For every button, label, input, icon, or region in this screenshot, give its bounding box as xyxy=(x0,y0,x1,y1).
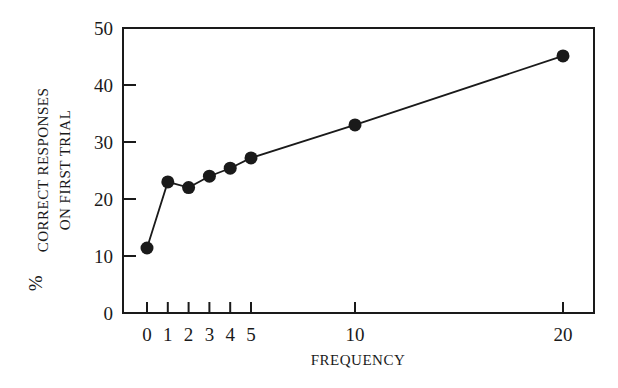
data-point xyxy=(203,170,216,183)
line-chart: 01020304050 0123451020 FREQUENCY CORRECT… xyxy=(0,0,618,388)
y-tick-label: 30 xyxy=(94,132,113,153)
data-point xyxy=(349,118,362,131)
x-axis-ticks: 0123451020 xyxy=(142,302,572,345)
y-axis-percent-sign: % xyxy=(25,275,46,291)
y-axis-title-line2: ON FIRST TRIAL xyxy=(57,110,73,231)
data-point xyxy=(557,49,570,62)
x-tick-label: 4 xyxy=(225,324,235,345)
x-tick-label: 0 xyxy=(142,324,152,345)
plot-frame xyxy=(123,28,594,313)
x-axis-title: FREQUENCY xyxy=(311,352,406,368)
data-markers xyxy=(141,49,570,254)
x-tick-label: 2 xyxy=(184,324,194,345)
y-tick-label: 40 xyxy=(94,75,113,96)
y-tick-label: 10 xyxy=(94,246,113,267)
x-tick-label: 3 xyxy=(205,324,215,345)
x-tick-label: 1 xyxy=(163,324,173,345)
x-tick-label: 5 xyxy=(246,324,256,345)
y-axis-ticks: 01020304050 xyxy=(94,18,136,324)
y-tick-label: 20 xyxy=(94,189,113,210)
data-point xyxy=(161,175,174,188)
data-point xyxy=(141,242,154,255)
y-axis-title-line1: CORRECT RESPONSES xyxy=(35,88,51,253)
y-tick-label: 0 xyxy=(104,303,114,324)
y-tick-label: 50 xyxy=(94,18,113,39)
data-point xyxy=(245,151,258,164)
data-point xyxy=(182,181,195,194)
x-tick-label: 10 xyxy=(346,324,365,345)
data-point xyxy=(224,162,237,175)
x-tick-label: 20 xyxy=(554,324,573,345)
data-line xyxy=(147,56,563,248)
y-axis-title: CORRECT RESPONSES ON FIRST TRIAL xyxy=(35,88,73,253)
